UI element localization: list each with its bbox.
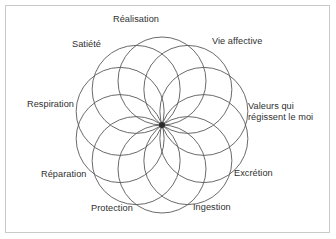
petal-circle [92,45,180,133]
label-excretion-text: Excrétion [234,168,273,178]
label-excretion: Excrétion [234,168,273,179]
label-vie-affective: Vie affective [212,36,262,47]
petal-circle [144,117,232,205]
petal-circle [92,117,180,205]
label-respiration-text: Respiration [27,99,74,109]
label-valeurs-line1: Valeurs qui [248,101,294,111]
petal-circle [160,67,248,155]
label-vie-affective-text: Vie affective [212,36,262,46]
figure-page: Réalisation Vie affective Valeurs qui ré… [0,0,336,239]
label-satiete: Satiété [72,39,101,50]
petal-circle [144,45,232,133]
label-reparation-text: Réparation [41,169,86,179]
label-ingestion-text: Ingestion [193,202,231,212]
label-reparation: Réparation [41,169,86,180]
label-valeurs-qui-regissent-le-moi: Valeurs qui régissent le moi [248,101,334,123]
label-respiration: Respiration [27,99,74,110]
label-ingestion: Ingestion [193,202,231,213]
label-realisation-text: Réalisation [113,14,159,24]
petal-circle [118,37,206,125]
label-protection: Protection [91,203,133,214]
petal-circle [118,125,206,213]
label-realisation: Réalisation [113,14,159,25]
label-valeurs-line2: régissent le moi [248,112,313,122]
label-protection-text: Protection [91,203,133,213]
petal-circle [76,67,164,155]
center-hub-dot [159,122,165,128]
label-satiete-text: Satiété [72,39,101,49]
petal-circle [76,95,164,183]
